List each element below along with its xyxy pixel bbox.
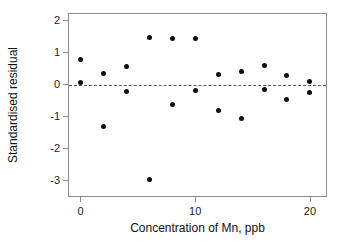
plot-area: 210-1-2-301020 <box>69 14 326 196</box>
data-point <box>284 73 289 78</box>
data-point <box>216 108 221 113</box>
data-point <box>124 64 129 69</box>
y-axis-title-text: Standardised residual <box>6 47 20 163</box>
data-point <box>239 116 244 121</box>
data-point <box>239 69 244 74</box>
y-axis-tick <box>63 116 69 117</box>
data-point <box>78 57 83 62</box>
data-point <box>262 63 267 68</box>
y-axis-tick-label: 0 <box>54 78 60 90</box>
data-point <box>101 124 106 129</box>
y-axis-tick-label: 2 <box>54 14 60 26</box>
data-point <box>193 88 198 93</box>
data-point <box>284 97 289 102</box>
x-axis-tick <box>80 196 81 202</box>
residual-plot-figure: Standardised residual 210-1-2-301020 Con… <box>0 0 343 246</box>
zero-reference-line <box>69 85 326 86</box>
data-point <box>170 102 175 107</box>
data-point <box>262 87 267 92</box>
y-axis-tick <box>63 20 69 21</box>
x-axis-tick-label: 20 <box>304 205 316 217</box>
data-point <box>147 35 152 40</box>
x-axis-tick-label: 0 <box>77 205 83 217</box>
data-point <box>307 79 312 84</box>
y-axis-tick <box>63 148 69 149</box>
y-axis-tick-label: -1 <box>50 110 60 122</box>
data-point <box>307 90 312 95</box>
data-point <box>101 71 106 76</box>
y-axis-tick <box>63 180 69 181</box>
x-axis-tick <box>195 196 196 202</box>
y-axis-tick <box>63 84 69 85</box>
y-axis-tick-label: -3 <box>50 174 60 186</box>
data-point <box>170 36 175 41</box>
data-point <box>124 89 129 94</box>
x-axis-title: Concentration of Mn, ppb <box>68 221 327 235</box>
y-axis-tick-label: 1 <box>54 46 60 58</box>
plot-frame: 210-1-2-301020 <box>68 13 327 197</box>
data-point <box>193 36 198 41</box>
y-axis-title: Standardised residual <box>4 13 22 197</box>
x-axis-tick-label: 10 <box>189 205 201 217</box>
data-point <box>147 177 152 182</box>
data-point <box>216 72 221 77</box>
y-axis-tick-label: -2 <box>50 142 60 154</box>
x-axis-tick <box>310 196 311 202</box>
y-axis-tick <box>63 52 69 53</box>
